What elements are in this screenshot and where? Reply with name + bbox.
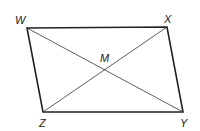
label-y: Y — [180, 117, 188, 129]
label-z: Z — [38, 117, 47, 129]
diagonal-wy — [27, 28, 183, 112]
label-m: M — [100, 52, 110, 64]
label-x: X — [163, 13, 172, 25]
diagonal-xz — [43, 27, 167, 112]
label-w: W — [15, 14, 27, 26]
parallelogram-diagram: W X M Z Y — [0, 0, 200, 131]
